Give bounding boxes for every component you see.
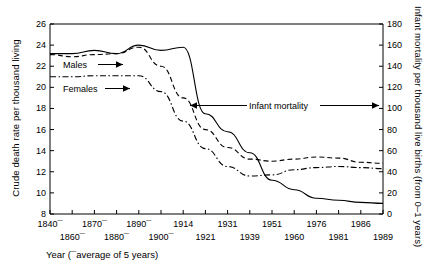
annotation-females: Females <box>63 84 98 94</box>
y2-tick-label: 160 <box>387 40 413 50</box>
y-tick-label: 10 <box>24 188 46 198</box>
x-tick-label: 1939 <box>230 232 270 242</box>
x-tick-label: 1870¯ <box>74 219 114 229</box>
y-tick-label: 20 <box>24 82 46 92</box>
y-tick-label: 22 <box>24 61 46 71</box>
y2-tick-label: 180 <box>387 19 413 29</box>
x-tick-label: 1976 <box>296 219 336 229</box>
x-tick-label: 1960 <box>274 232 314 242</box>
x-tick-label: 1860¯ <box>52 232 92 242</box>
x-tick-label: 1880¯ <box>97 232 137 242</box>
y-tick-label: 16 <box>24 125 46 135</box>
y-tick-label: 18 <box>24 103 46 113</box>
x-tick-label: 1890¯ <box>119 219 159 229</box>
y-tick-label: 12 <box>24 167 46 177</box>
x-tick-label: 1900¯ <box>141 232 181 242</box>
annotation-males: Males <box>63 60 87 70</box>
x-tick-label: 1921 <box>185 232 225 242</box>
x-tick-label: 1931 <box>208 219 248 229</box>
y2-tick-label: 80 <box>387 125 413 135</box>
y2-tick-label: 0 <box>387 209 413 219</box>
y-tick-label: 14 <box>24 146 46 156</box>
y-tick-label: 26 <box>24 19 46 29</box>
y-tick-label: 8 <box>24 209 46 219</box>
y2-tick-label: 40 <box>387 167 413 177</box>
figure: Crude death rate per thousand living Inf… <box>0 0 434 280</box>
x-tick-label: 1981 <box>319 232 359 242</box>
x-tick-label: 1986 <box>341 219 381 229</box>
x-tick-label: 1840¯ <box>30 219 70 229</box>
y2-tick-label: 120 <box>387 82 413 92</box>
y2-tick-label: 100 <box>387 103 413 113</box>
y2-tick-label: 140 <box>387 61 413 71</box>
x-tick-label: 1951 <box>252 219 292 229</box>
y2-tick-label: 20 <box>387 188 413 198</box>
annotation-infant-mortality: Infant mortality <box>249 101 308 111</box>
x-tick-label: 1914 <box>163 219 203 229</box>
x-tick-label: 1989 <box>363 232 403 242</box>
y2-tick-label: 60 <box>387 146 413 156</box>
y-tick-label: 24 <box>24 40 46 50</box>
